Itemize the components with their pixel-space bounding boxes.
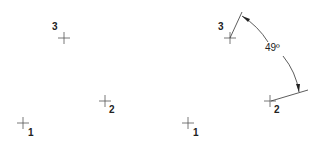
dimension-arc-lower: [283, 56, 299, 92]
left-point-1-label: 1: [28, 128, 34, 138]
extension-line-3: [230, 12, 242, 38]
right-point-3-label: 3: [218, 22, 224, 32]
dimension-arc-upper: [242, 16, 268, 42]
angle-dimension-value: 49º: [265, 43, 280, 53]
left-point-2-label: 2: [109, 105, 115, 115]
left-point-3-cross-icon: [58, 32, 70, 44]
left-point-3-label: 3: [52, 22, 58, 32]
arrowhead-lower-icon: [296, 84, 300, 92]
right-point-2-label: 2: [274, 105, 280, 115]
drawing-canvas: [0, 0, 324, 145]
right-point-1-label: 1: [193, 128, 199, 138]
extension-line-2: [271, 90, 308, 101]
